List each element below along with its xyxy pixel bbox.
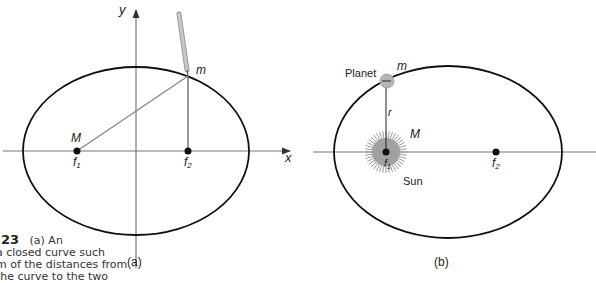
focus-2-dot xyxy=(493,149,500,156)
mass-small-label: m xyxy=(196,63,206,77)
focus-2-label: f2 xyxy=(492,156,500,171)
planet-mass-label: m xyxy=(397,59,407,73)
mass-big-label: M xyxy=(71,131,81,145)
y-axis-label: y xyxy=(118,2,127,17)
caption-line-4: the curve to the two xyxy=(0,271,127,283)
string-f1-to-m xyxy=(77,76,188,151)
focus-1-label: f1 xyxy=(73,155,81,170)
x-axis-label: x xyxy=(284,150,292,165)
planet-label: Planet xyxy=(345,67,376,79)
focus-2-label: f2 xyxy=(184,155,192,170)
pencil-icon xyxy=(179,14,188,75)
focus-2-dot xyxy=(185,148,192,155)
figure-number: .23 xyxy=(0,232,19,247)
panel-a: y x M m f1 f2 (a) xyxy=(3,2,292,269)
sun-label: Sun xyxy=(403,175,423,187)
panel-a-label: (a) xyxy=(127,255,142,269)
figure-caption: .23 (a) An a closed curve such m of the … xyxy=(0,234,127,283)
sun-mass-label: M xyxy=(410,127,420,141)
panel-b-label: (b) xyxy=(434,255,449,269)
panel-b: Planet m r M Sun f1 f2 (b) xyxy=(313,59,596,269)
focus-1-dot xyxy=(74,148,81,155)
radius-label: r xyxy=(388,106,393,118)
